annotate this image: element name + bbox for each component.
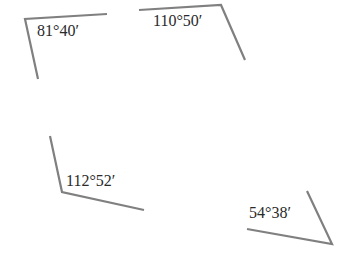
angle-2-label: 110°50′ — [153, 13, 202, 29]
angle-4-label: 54°38′ — [249, 205, 291, 221]
angle-3-label: 112°52′ — [66, 173, 115, 189]
angle-diagram — [0, 0, 346, 268]
angle-1-label: 81°40′ — [37, 23, 79, 39]
